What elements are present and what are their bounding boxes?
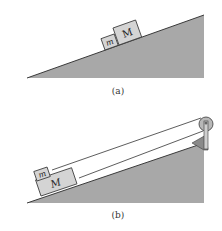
panel-b: M m	[27, 117, 213, 203]
caption-a: (a)	[98, 86, 138, 96]
pulley-axle	[205, 122, 208, 125]
physics-diagram: m M M m	[0, 0, 222, 231]
caption-b: (b)	[98, 210, 138, 220]
panel-a: m M	[27, 15, 204, 78]
pulley-post	[204, 121, 208, 149]
